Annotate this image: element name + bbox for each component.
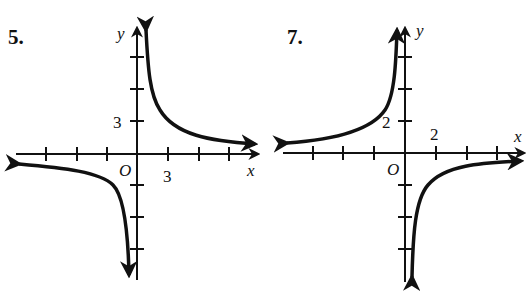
- graph-number: 5.: [8, 25, 24, 49]
- origin-label: O: [119, 161, 131, 180]
- y-axis-label: y: [115, 24, 125, 43]
- origin-label: O: [387, 160, 399, 179]
- graph-7: 7. y x O 2 2: [283, 21, 524, 282]
- curve-branch-quadrant-IV: [412, 161, 521, 277]
- x-tick-label: 2: [430, 125, 439, 144]
- y-axis-label: y: [414, 21, 424, 40]
- x-axis-label: x: [246, 161, 255, 180]
- y-tick-label: 3: [113, 113, 122, 132]
- curve-branch-quadrant-I: [146, 30, 255, 144]
- curve-branch-quadrant-III: [19, 164, 129, 275]
- y-tick-label: 2: [382, 113, 391, 132]
- x-axis-label: x: [513, 127, 522, 146]
- figure: 5. y x O 3 3 7.: [0, 0, 531, 292]
- graph-number: 7.: [287, 25, 303, 49]
- graph-5: 5. y x O 3 3: [8, 24, 258, 280]
- x-tick-label: 3: [163, 167, 172, 186]
- curve-branch-quadrant-II: [287, 30, 397, 143]
